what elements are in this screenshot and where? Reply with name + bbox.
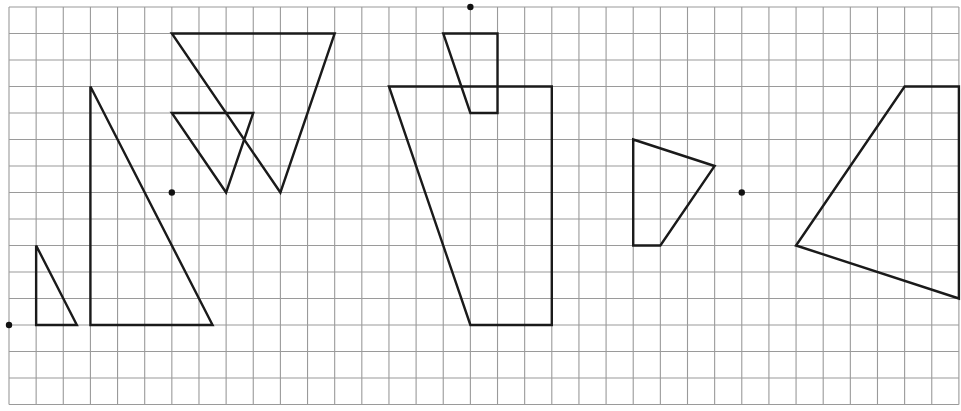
center-dot-2 xyxy=(169,189,175,195)
center-dot-1 xyxy=(6,322,12,328)
grid-diagram xyxy=(0,0,961,411)
large-right-triangle xyxy=(90,87,212,326)
center-dot-4 xyxy=(739,189,745,195)
small-right-triangle xyxy=(36,246,77,326)
center-dot-3 xyxy=(467,4,473,10)
small-inverted-triangle xyxy=(172,113,253,193)
